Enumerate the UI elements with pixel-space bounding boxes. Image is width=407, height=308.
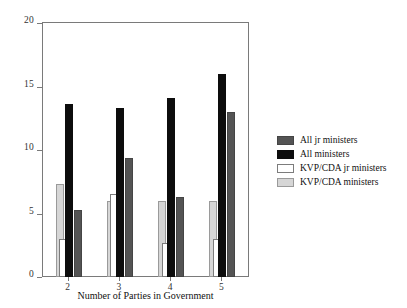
x-axis-tick-mark (68, 277, 69, 281)
legend-item-label: KVP/CDA ministers (300, 178, 378, 188)
bar-all-ministers-5 (218, 74, 226, 277)
bar-all-jr-3 (125, 158, 133, 277)
x-axis-tick-mark (221, 277, 222, 281)
bar-chart-figure: 05101520 2345 Number of Parties in Gover… (0, 0, 407, 308)
y-axis-tick-label: 20 (24, 16, 34, 26)
legend-item-all-jr[interactable]: All jr ministers (277, 134, 405, 147)
y-axis-tick-mark (37, 23, 42, 24)
y-axis-tick-label: 0 (29, 270, 34, 280)
legend-item-label: KVP/CDA jr ministers (300, 164, 387, 174)
x-axis-title: Number of Parties in Government (42, 291, 249, 301)
legend-swatch-icon (277, 178, 294, 187)
bar-all-jr-4 (176, 197, 184, 277)
legend-item-all-ministers[interactable]: All ministers (277, 148, 405, 161)
x-axis-tick-mark (170, 277, 171, 281)
legend-swatch-icon (277, 164, 294, 173)
legend-swatch-icon (277, 136, 294, 145)
y-axis-tick-mark (37, 150, 42, 151)
y-axis: 05101520 (0, 0, 42, 308)
y-axis-tick-mark (37, 87, 42, 88)
legend-item-label: All jr ministers (300, 136, 358, 146)
y-axis-tick-label: 5 (29, 207, 34, 217)
y-axis-tick-mark (37, 214, 42, 215)
bar-all-ministers-2 (65, 104, 73, 277)
legend-swatch-icon (277, 150, 294, 159)
legend-item-kvpcda-jr[interactable]: KVP/CDA jr ministers (277, 162, 405, 175)
bar-all-ministers-4 (167, 98, 175, 277)
y-axis-tick-label: 15 (24, 80, 34, 90)
legend-item-label: All ministers (300, 150, 349, 160)
bar-all-jr-5 (227, 112, 235, 277)
y-axis-tick-label: 10 (24, 143, 34, 153)
bar-all-jr-2 (74, 210, 82, 277)
x-axis-tick-mark (119, 277, 120, 281)
bars-layer (43, 23, 248, 277)
chart-legend: All jr ministersAll ministersKVP/CDA jr … (277, 134, 405, 190)
legend-item-kvpcda-ministers[interactable]: KVP/CDA ministers (277, 176, 405, 189)
bar-all-ministers-3 (116, 108, 124, 277)
